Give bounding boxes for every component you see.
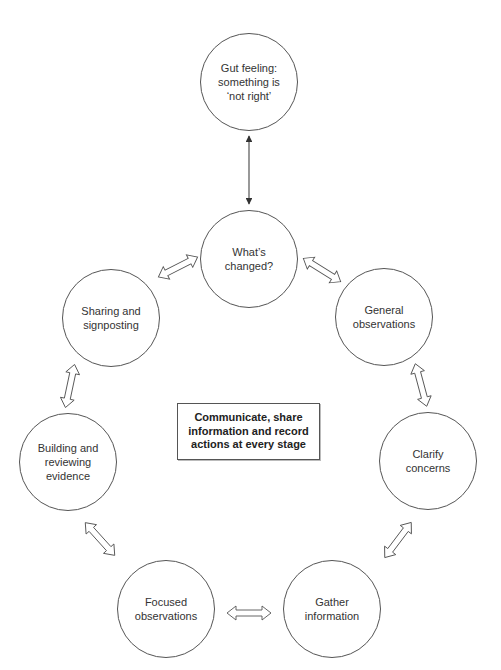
node-clarify-concerns: Clarify concerns [379, 412, 477, 510]
node-label: Gather information [297, 595, 367, 623]
node-label: Focused observations [127, 595, 205, 623]
node-whats-changed: What’s changed? [200, 210, 298, 308]
edge-general-observations-clarify-concerns [409, 362, 434, 408]
node-sharing-signposting: Sharing and signposting [62, 269, 160, 367]
edge-whats-changed-general-observations [300, 252, 345, 287]
edge-sharing-signposting-whats-changed [155, 251, 201, 283]
edge-gather-information-focused-observations [227, 606, 271, 620]
node-gather-information: Gather information [283, 560, 381, 658]
node-general-observations: General observations [335, 268, 433, 366]
node-label: Clarify concerns [398, 447, 459, 475]
node-gut-feeling: Gut feeling: something is ‘not right’ [200, 33, 298, 131]
center-instruction-box: Communicate, share information and recor… [177, 403, 320, 460]
node-label: Sharing and signposting [73, 304, 148, 332]
node-label: Building and reviewing evidence [30, 441, 107, 483]
node-building-reviewing-evidence: Building and reviewing evidence [19, 413, 117, 511]
edge-clarify-concerns-gather-information [379, 518, 417, 562]
node-focused-observations: Focused observations [117, 560, 215, 658]
edge-focused-observations-building-evidence [80, 518, 120, 560]
node-label: What’s changed? [217, 245, 281, 273]
node-label: Gut feeling: something is ‘not right’ [210, 61, 288, 103]
edge-building-evidence-sharing-signposting [59, 363, 82, 409]
center-instruction-text: Communicate, share information and recor… [188, 411, 308, 452]
node-label: General observations [345, 303, 423, 331]
